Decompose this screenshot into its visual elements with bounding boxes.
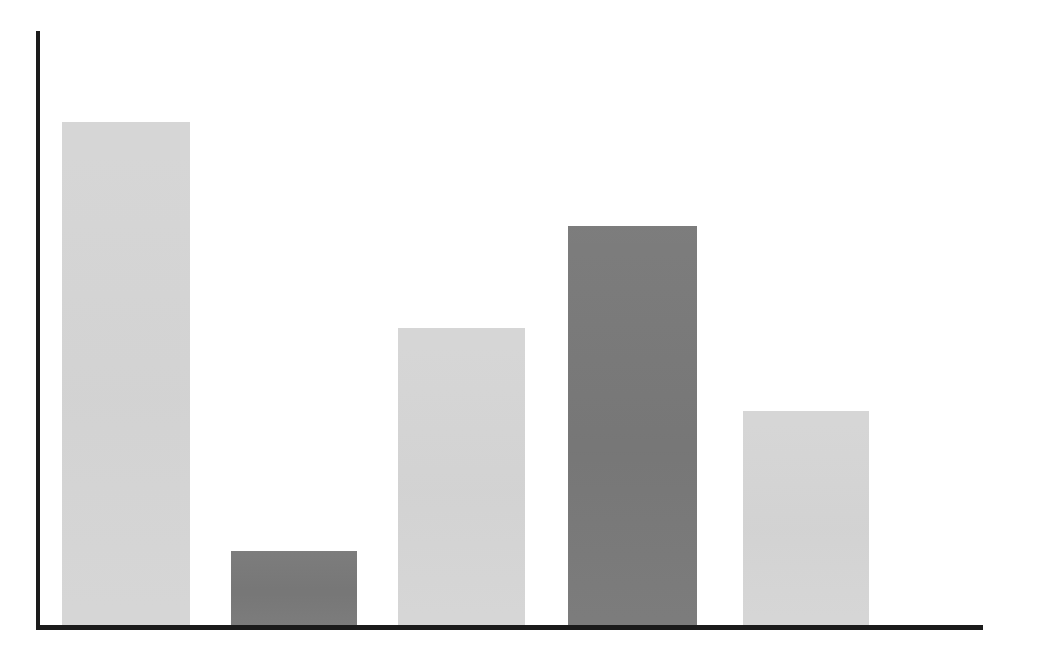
bar-1	[62, 122, 190, 625]
bar-chart	[0, 0, 1038, 663]
bar-2	[231, 551, 357, 625]
bar-4	[568, 226, 697, 625]
bar-3	[398, 328, 525, 625]
bar-5	[743, 411, 869, 625]
bars-group	[0, 0, 1038, 663]
